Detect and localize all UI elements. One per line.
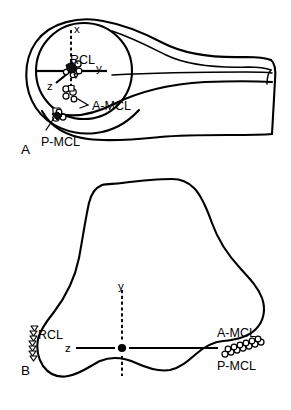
panel-a-rcl-label: RCL xyxy=(70,53,95,67)
panel-b-label: B xyxy=(21,363,30,378)
figure-root: RCL x y z A-MCL P-MCL A xyxy=(0,0,291,410)
panel-b-axis-z-label: z xyxy=(65,342,71,354)
panel-a-p-mcl-label: P-MCL xyxy=(41,135,80,149)
panel-a-axis-z-label: z xyxy=(47,80,53,92)
panel-b-a-mcl-label: A-MCL xyxy=(217,326,256,340)
anatomical-diagram-svg: RCL x y z A-MCL P-MCL A xyxy=(0,0,291,410)
panel-b-rcl-label: RCL xyxy=(38,328,63,342)
panel-a-axis-y-label: y xyxy=(96,62,102,74)
panel-a-a-mcl-label: A-MCL xyxy=(92,99,131,113)
panel-a-axis-x-label: x xyxy=(74,23,80,35)
panel-b-p-mcl-label: P-MCL xyxy=(217,359,256,373)
panel-b-axis-y-label: y xyxy=(118,280,124,292)
panel-a-label: A xyxy=(21,142,30,157)
panel-b-origin-dot xyxy=(118,344,126,352)
